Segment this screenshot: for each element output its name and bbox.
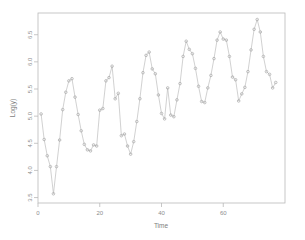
- x-tick-label: 40: [158, 210, 165, 216]
- y-tick-label: 3.5: [27, 193, 33, 202]
- y-tick-label: 5.5: [27, 84, 33, 93]
- chart-container: 0204060 3.54.04.55.05.56.06.5 Time Log(y…: [0, 0, 305, 240]
- y-axis-title: Log(y): [9, 99, 17, 117]
- y-tick-label: 4.5: [27, 138, 33, 147]
- y-tick-label: 4.0: [27, 166, 33, 175]
- y-tick-label: 6.0: [27, 57, 33, 66]
- chart-svg: 0204060 3.54.04.55.05.56.06.5 Time Log(y…: [0, 0, 305, 240]
- chart-background: [0, 0, 305, 240]
- x-axis-title: Time: [154, 222, 169, 229]
- y-tick-label: 5.0: [27, 111, 33, 120]
- x-tick-label: 20: [96, 210, 103, 216]
- x-tick-label: 60: [220, 210, 227, 216]
- y-tick-label: 6.5: [27, 30, 33, 39]
